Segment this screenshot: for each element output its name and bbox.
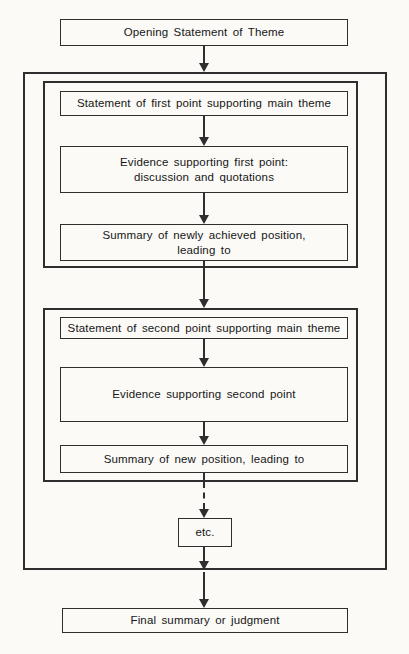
node-etc-label: etc.	[195, 525, 214, 540]
node-first-point-summary: Summary of newly achieved position, lead…	[60, 224, 348, 261]
arrow-evidence2-to-summary2	[199, 422, 209, 445]
arrowhead-icon	[199, 509, 209, 518]
arrow-stub	[203, 473, 205, 482]
essay-structure-flowchart: Opening Statement of Theme Statement of …	[0, 0, 409, 654]
arrowhead-icon	[199, 436, 209, 445]
arrow-shaft	[203, 572, 205, 599]
arrow-shaft	[203, 339, 205, 358]
node-first-point-evidence: Evidence supporting first point: discuss…	[60, 146, 348, 193]
arrow-opening-to-body	[199, 46, 209, 72]
node-second-point-summary-label: Summary of new position, leading to	[104, 452, 305, 467]
node-final-summary-label: Final summary or judgment	[130, 613, 279, 628]
node-second-point-evidence-label: Evidence supporting second point	[112, 387, 295, 402]
arrow-group1-to-group2	[199, 260, 209, 308]
arrow-shaft	[203, 547, 205, 561]
node-etc: etc.	[178, 518, 232, 547]
arrow-shaft-dashed	[203, 482, 205, 509]
arrowhead-icon	[199, 599, 209, 608]
arrowhead-icon	[199, 137, 209, 146]
node-opening-statement: Opening Statement of Theme	[60, 19, 348, 46]
node-second-point-summary: Summary of new position, leading to	[60, 445, 348, 473]
arrow-etc-to-frame-bottom	[199, 547, 209, 570]
node-final-summary: Final summary or judgment	[62, 608, 348, 633]
arrow-statement2-to-evidence2	[199, 339, 209, 367]
node-second-point-evidence: Evidence supporting second point	[60, 367, 348, 422]
arrow-shaft	[203, 116, 205, 137]
node-opening-statement-label: Opening Statement of Theme	[124, 25, 285, 40]
node-first-point-summary-line2: leading to	[177, 243, 230, 258]
node-second-point-statement-label: Statement of second point supporting mai…	[68, 321, 341, 336]
arrowhead-icon	[199, 358, 209, 367]
node-first-point-summary-line1: Summary of newly achieved position,	[102, 228, 305, 243]
arrowhead-icon	[199, 63, 209, 72]
node-first-point-evidence-line1: Evidence supporting first point:	[120, 155, 288, 170]
arrow-evidence1-to-summary1	[199, 193, 209, 224]
arrow-group2-to-etc-dashed	[199, 482, 209, 518]
arrowhead-icon	[199, 561, 209, 570]
node-first-point-evidence-line2: discussion and quotations	[134, 170, 274, 185]
arrow-shaft	[203, 260, 205, 299]
arrow-frame-to-final	[199, 572, 209, 608]
arrow-statement1-to-evidence1	[199, 116, 209, 146]
node-first-point-statement-label: Statement of first point supporting main…	[77, 96, 331, 111]
arrow-shaft	[203, 193, 205, 215]
arrow-shaft	[203, 422, 205, 436]
arrowhead-icon	[199, 215, 209, 224]
node-first-point-statement: Statement of first point supporting main…	[60, 91, 348, 116]
arrowhead-icon	[199, 299, 209, 308]
arrow-shaft	[203, 46, 205, 63]
node-second-point-statement: Statement of second point supporting mai…	[60, 317, 348, 339]
